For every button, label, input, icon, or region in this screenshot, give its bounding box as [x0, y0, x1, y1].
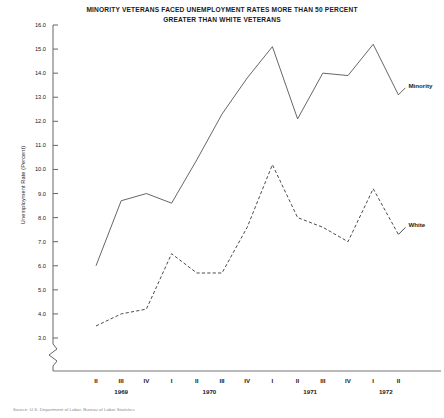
source-note: Source: U.S. Department of Labor, Bureau… [13, 407, 135, 412]
chart-container: MINORITY VETERANS FACED UNEMPLOYMENT RAT… [0, 0, 444, 418]
series-line-minority [96, 44, 398, 266]
series-leader-minority [398, 88, 405, 95]
y-axis-break-symbol [49, 344, 57, 371]
series-leader-white [398, 227, 405, 234]
plot-area [0, 0, 444, 418]
series-line-white [96, 165, 398, 326]
